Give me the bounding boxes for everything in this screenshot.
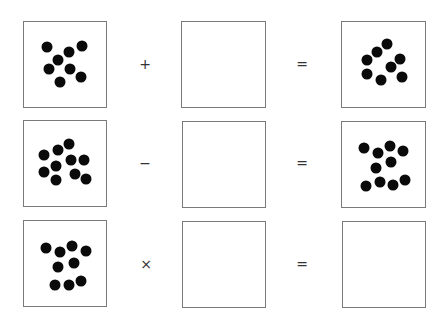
dot [66, 155, 77, 166]
row3-result-box[interactable] [342, 221, 426, 308]
dot [39, 150, 50, 161]
row2-middle-box[interactable] [182, 121, 266, 208]
dot [51, 161, 62, 172]
dot [372, 47, 383, 58]
row3-left-box [23, 220, 107, 307]
dot [371, 163, 382, 174]
dot [373, 148, 384, 159]
dot [67, 241, 78, 252]
dot [81, 174, 92, 185]
row3-equals: = [296, 257, 308, 271]
dot [386, 157, 397, 168]
dot [55, 247, 66, 258]
row1-equals: = [296, 57, 308, 71]
dot [397, 72, 408, 83]
dot [76, 276, 87, 287]
dot [398, 146, 409, 157]
row1-middle-box[interactable] [181, 21, 266, 108]
row1-operator-plus: + [139, 57, 151, 71]
dot [359, 143, 370, 154]
dot [385, 141, 396, 152]
row2-operator-minus: − [139, 156, 151, 170]
dot [76, 72, 87, 83]
dot [44, 64, 55, 75]
dot [386, 62, 397, 73]
dot [53, 262, 64, 273]
dot [375, 177, 386, 188]
dot [376, 75, 387, 86]
dot [69, 258, 80, 269]
dot [53, 55, 64, 66]
row3-middle-box[interactable] [182, 221, 266, 308]
dot [55, 77, 66, 88]
dot [64, 139, 75, 150]
dot [400, 175, 411, 186]
dot [53, 145, 64, 156]
dot [79, 155, 90, 166]
dot [51, 175, 62, 186]
row2-result-box [341, 121, 426, 208]
row1-result-box [341, 21, 426, 108]
dot [65, 64, 76, 75]
dot [361, 181, 372, 192]
dot [70, 169, 81, 180]
dot [362, 69, 373, 80]
row2-left-box [23, 120, 107, 207]
dot [64, 280, 75, 291]
dot [77, 41, 88, 52]
dot [81, 246, 92, 257]
dot [50, 280, 61, 291]
dot [388, 180, 399, 191]
dot [42, 42, 53, 53]
dot [39, 167, 50, 178]
dot [382, 39, 393, 50]
row2-equals: = [296, 156, 308, 170]
dot [64, 47, 75, 58]
dot [41, 243, 52, 254]
dot [362, 55, 373, 66]
dot [395, 54, 406, 65]
row3-operator-times: × [140, 257, 152, 271]
